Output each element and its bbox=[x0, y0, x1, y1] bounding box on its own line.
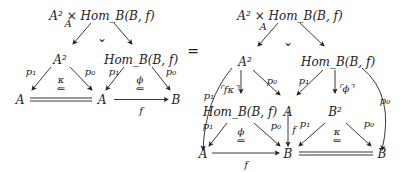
right-apex-sub: A bbox=[259, 21, 266, 33]
right-label-p0-outer: p₀ bbox=[380, 95, 390, 107]
left-node-A2: A² bbox=[53, 54, 66, 66]
left-label-p1a: p₁ bbox=[26, 66, 36, 78]
right-label-p1-b: p₁ bbox=[299, 75, 309, 87]
right-label-p0-d: p₀ bbox=[364, 118, 374, 130]
right-pullback-mark: ⌄ bbox=[283, 36, 293, 48]
right-node-B-right: B bbox=[378, 148, 387, 160]
left-label-f: f bbox=[139, 105, 143, 117]
right-label-p0-c: p₀ bbox=[271, 120, 281, 132]
left-label-p0b: p₀ bbox=[166, 66, 176, 78]
left-pullback-mark: ⌄ bbox=[97, 32, 107, 44]
left-apex-sub: A bbox=[64, 18, 71, 30]
left-node-hom: Hom_B(B, f) bbox=[104, 54, 178, 66]
left-node-A-left: A bbox=[16, 94, 25, 106]
right-apex: A² × Hom_B(B, f) bbox=[237, 10, 342, 22]
commutative-diagram: A² × Hom_B(B, f) A ⌄ A² Hom_B(B, f) A A … bbox=[0, 0, 403, 172]
right-node-A: A bbox=[284, 106, 293, 118]
left-node-B: B bbox=[172, 94, 181, 106]
right-label-f: f bbox=[244, 159, 248, 171]
right-label-fkappa: ⌜fκ⌝ bbox=[219, 84, 239, 96]
right-node-hom-mid: Hom_B(B, f) bbox=[203, 106, 277, 118]
left-node-A-mid: A bbox=[98, 94, 107, 106]
left-label-p1b: p₁ bbox=[109, 66, 119, 78]
right-node-hom-top: Hom_B(B, f) bbox=[301, 56, 375, 68]
right-label-p1-outer: p₁ bbox=[204, 90, 214, 102]
right-2cell-arrow-phi: ⇐ bbox=[237, 135, 245, 147]
equals-sign: = bbox=[187, 45, 199, 57]
right-node-A-bottom: A bbox=[199, 148, 208, 160]
right-label-p1-c: p₁ bbox=[203, 120, 213, 132]
right-node-A2: A² bbox=[238, 56, 251, 68]
right-label-f-vertical: f bbox=[292, 124, 296, 136]
right-node-B-mid: B bbox=[284, 148, 293, 160]
left-2cell-arrow-phi: ⇐ bbox=[136, 83, 144, 95]
right-label-p1-d: p₁ bbox=[300, 118, 310, 130]
right-label-phi-bracket: ⌜ϕ⌝ bbox=[338, 83, 355, 95]
right-2cell-arrow-kappa: ⇐ bbox=[333, 135, 341, 147]
right-label-p0-a: p₀ bbox=[267, 75, 277, 87]
right-node-B2: B² bbox=[328, 106, 342, 118]
left-label-p0a: p₀ bbox=[85, 66, 95, 78]
left-2cell-arrow-kappa: ⇐ bbox=[57, 83, 65, 95]
